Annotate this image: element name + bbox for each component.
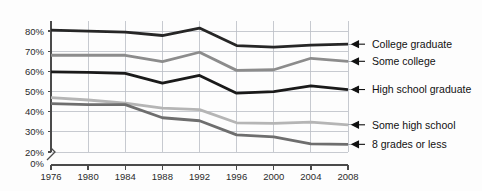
legend-label-2: High school graduate <box>372 83 471 95</box>
y-axis-tick-label: 20% <box>25 147 45 158</box>
y-axis-tick-label: 70% <box>25 46 45 57</box>
legend-label-0: College graduate <box>372 38 452 50</box>
y-axis-tick-label: 50% <box>25 86 45 97</box>
x-axis-tick-label: 2000 <box>263 171 284 182</box>
left-arrow-icon <box>352 58 365 64</box>
horizontal-gridlines <box>48 31 348 152</box>
y-axis-tick-label: 80% <box>25 26 45 37</box>
x-axis-tick-label: 1976 <box>40 171 61 182</box>
legend-label-3: Some high school <box>372 119 455 131</box>
line-chart: 20%30%40%50%60%70%80% 0% 197619801984198… <box>0 0 482 191</box>
left-arrow-icon <box>352 122 365 128</box>
y-axis-tick-label: 30% <box>25 126 45 137</box>
x-axis-tick-label: 1996 <box>226 171 247 182</box>
x-axis-tick-label: 1984 <box>115 171 136 182</box>
x-axis-tick-label: 1988 <box>152 171 173 182</box>
x-axis-tick-label: 2008 <box>337 171 358 182</box>
y-axis-tick-label: 60% <box>25 66 45 77</box>
x-axis-tick-labels: 197619801984198819921996200020042008 <box>40 171 358 182</box>
left-arrow-icon <box>352 86 365 92</box>
y-axis-tick-label: 40% <box>25 106 45 117</box>
x-axis-tick-label: 1992 <box>189 171 210 182</box>
x-axis-tick-label: 1980 <box>78 171 99 182</box>
x-axis-tick-marks <box>51 165 348 170</box>
left-arrow-icon <box>352 141 365 147</box>
x-axis-tick-label: 2004 <box>300 171 321 182</box>
left-arrow-icon <box>352 41 365 47</box>
chart-canvas: 20%30%40%50%60%70%80% 0% 197619801984198… <box>0 0 482 191</box>
y-axis-zero-label: 0% <box>30 158 44 169</box>
chart-legend: College graduateSome collegeHigh school … <box>348 38 471 150</box>
legend-label-1: Some college <box>372 55 436 67</box>
legend-label-4: 8 grades or less <box>372 138 447 150</box>
y-axis-tick-labels: 20%30%40%50%60%70%80% <box>25 26 45 158</box>
